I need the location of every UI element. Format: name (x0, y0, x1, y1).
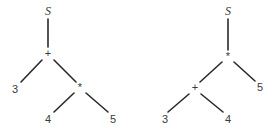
root-node-s: S (45, 4, 51, 18)
edge-times-5 (234, 62, 255, 81)
leaf-node-5: 5 (257, 81, 263, 93)
times-operator-node: * (78, 81, 83, 93)
parse-tree-diagram: S + 3 * 4 5 S * + 5 3 4 (0, 0, 275, 132)
plus-operator-node: + (192, 81, 198, 93)
right-tree: S * + 5 3 4 (162, 4, 263, 125)
root-node-s: S (225, 4, 231, 18)
plus-operator-node: + (45, 47, 51, 59)
edge-times-plus (200, 62, 222, 82)
edge-plus-times (54, 60, 76, 82)
edge-times-5 (86, 93, 108, 112)
edge-plus-4 (201, 94, 223, 112)
leaf-node-3: 3 (12, 83, 18, 95)
leaf-node-5: 5 (110, 113, 116, 125)
left-tree: S + 3 * 4 5 (12, 4, 116, 125)
edge-plus-3 (21, 60, 42, 82)
leaf-node-4: 4 (45, 113, 51, 125)
times-operator-node: * (226, 50, 231, 62)
edge-plus-3 (168, 94, 189, 112)
edge-times-4 (54, 93, 74, 112)
diagram-svg: S + 3 * 4 5 S * + 5 3 4 (0, 0, 275, 132)
leaf-node-4: 4 (225, 113, 231, 125)
leaf-node-3: 3 (162, 113, 168, 125)
